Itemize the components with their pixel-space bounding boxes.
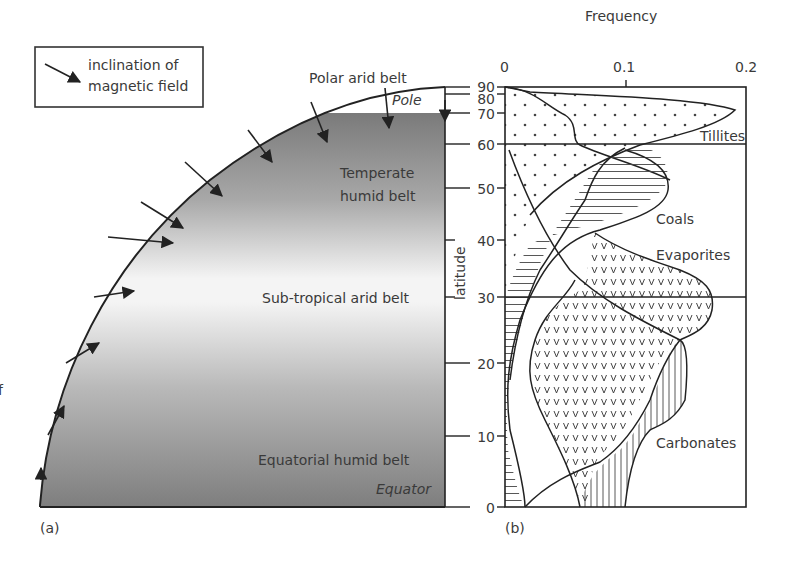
panel-a-globe: Polar arid belt Pole Temperate humid bel… xyxy=(0,70,470,536)
legend-line1: inclination of xyxy=(88,57,180,73)
stray-text: f xyxy=(0,382,4,398)
svg-text:0: 0 xyxy=(486,500,495,516)
panel-a-label: (a) xyxy=(40,520,60,536)
legend-line2: magnetic field xyxy=(88,78,188,94)
svg-text:80: 80 xyxy=(477,91,495,107)
svg-text:30: 30 xyxy=(477,290,495,306)
coals-label: Coals xyxy=(656,211,694,227)
carbonates-label: Carbonates xyxy=(656,435,736,451)
tillites-label: Tillites xyxy=(699,128,745,144)
svg-text:60: 60 xyxy=(477,137,495,153)
y-axis-title: latitude xyxy=(452,246,468,300)
panel-b-chart: 90 80 70 60 50 40 30 20 10 0 latitude Fr… xyxy=(452,8,757,536)
temperate-label-1: Temperate xyxy=(339,165,414,181)
subtropical-label: Sub-tropical arid belt xyxy=(262,290,410,306)
x-tick-0: 0 xyxy=(500,59,509,75)
legend-box: inclination of magnetic field xyxy=(35,47,203,107)
evaporites-label: Evaporites xyxy=(656,247,730,263)
paleoclimate-figure: inclination of magnetic field xyxy=(0,0,789,562)
y-axis-ticks: 90 80 70 60 50 40 30 20 10 0 xyxy=(477,79,495,516)
svg-text:70: 70 xyxy=(477,106,495,122)
svg-text:40: 40 xyxy=(477,233,495,249)
pole-label: Pole xyxy=(392,92,422,108)
svg-text:10: 10 xyxy=(477,429,495,445)
equatorial-label: Equatorial humid belt xyxy=(258,452,410,468)
equator-label: Equator xyxy=(376,481,432,497)
x-tick-0.1: 0.1 xyxy=(613,59,635,75)
temperate-label-2: humid belt xyxy=(340,188,416,204)
x-axis-title: Frequency xyxy=(585,8,657,24)
polar-arid-belt-label: Polar arid belt xyxy=(309,70,407,86)
svg-text:20: 20 xyxy=(477,356,495,372)
x-tick-0.2: 0.2 xyxy=(735,59,757,75)
svg-text:50: 50 xyxy=(477,181,495,197)
panel-b-label: (b) xyxy=(505,520,525,536)
